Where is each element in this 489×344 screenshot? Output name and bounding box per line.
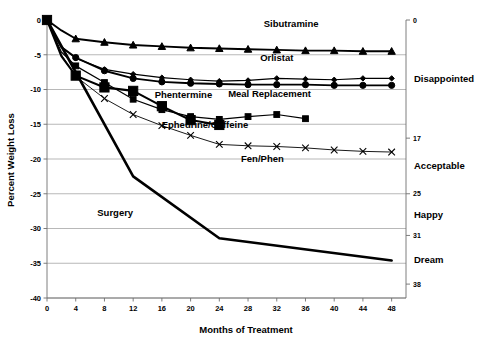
- y-tick-label: -25: [30, 190, 41, 199]
- series-label-orlistat: Orlistat: [260, 52, 294, 63]
- x-tick-label: 16: [158, 304, 166, 313]
- data-point-marker: [360, 76, 365, 81]
- series-label-phentermine: Phentermine: [155, 89, 213, 100]
- series-line: [47, 20, 392, 85]
- right-category-label: Acceptable: [414, 160, 465, 171]
- data-point-marker: [389, 76, 394, 81]
- right-tick-label: 17: [413, 135, 421, 142]
- x-tick-label: 12: [129, 304, 137, 313]
- data-point-marker: [73, 54, 79, 60]
- right-tick-label: 25: [413, 190, 421, 197]
- data-point-marker: [130, 96, 136, 102]
- y-tick-label: -5: [34, 51, 41, 60]
- data-point-marker: [302, 82, 308, 88]
- y-axis-title: Percent Weight Loss: [5, 113, 16, 207]
- series-label-sibutramine: Sibutramine: [264, 18, 319, 29]
- series-label-ephedrine-caffeine: Ephedrine/Caffeine: [162, 119, 249, 130]
- weight-loss-line-chart: 0-5-10-15-20-25-30-35-40 048121620242832…: [0, 0, 489, 344]
- series-surgery: [47, 20, 392, 260]
- data-series: [42, 15, 395, 260]
- y-tick-label: 0: [37, 16, 41, 25]
- data-point-marker: [303, 76, 308, 81]
- right-category-label: Happy: [414, 209, 444, 220]
- x-tick-label: 48: [387, 304, 395, 313]
- y-tick-label: -10: [30, 85, 41, 94]
- right-tick-label: 38: [413, 281, 421, 288]
- x-tick-label: 24: [215, 304, 224, 313]
- data-point-marker: [274, 76, 279, 81]
- x-tick-label: 4: [74, 304, 79, 313]
- x-tick-label: 40: [330, 304, 338, 313]
- data-point-marker: [331, 82, 337, 88]
- y-tick-label: -20: [30, 155, 41, 164]
- right-category-label: Disappointed: [414, 73, 474, 84]
- data-point-marker: [274, 82, 280, 88]
- y-tick-label: -15: [30, 120, 41, 129]
- data-point-marker: [100, 83, 109, 92]
- data-point-marker: [389, 82, 395, 88]
- x-axis-title: Months of Treatment: [199, 324, 293, 335]
- series-line: [47, 20, 392, 260]
- series-sibutramine: [43, 16, 395, 54]
- data-point-marker: [159, 79, 165, 85]
- data-point-marker: [303, 116, 309, 122]
- x-tick-label: 0: [45, 304, 49, 313]
- x-tick-label: 36: [301, 304, 309, 313]
- right-tick-label: 0: [413, 17, 417, 24]
- series-phentermine: [44, 17, 308, 122]
- series-label-fen-phen: Fen/Phen: [241, 153, 284, 164]
- secondary-axis: 017253138DisappointedAcceptableHappyDrea…: [406, 17, 474, 288]
- data-point-marker: [245, 82, 251, 88]
- y-tick-label: -35: [30, 259, 41, 268]
- data-point-marker: [157, 102, 166, 111]
- x-tick-label: 20: [186, 304, 194, 313]
- data-point-marker: [101, 68, 107, 74]
- data-point-marker: [360, 82, 366, 88]
- x-tick-label: 28: [244, 304, 252, 313]
- y-tick-label: -40: [30, 294, 41, 303]
- x-axis-ticks: 04812162024283236404448: [45, 298, 396, 313]
- data-point-marker: [216, 81, 222, 87]
- x-tick-label: 44: [359, 304, 368, 313]
- series-label-meal-replacement: Meal Replacement: [228, 88, 312, 99]
- data-point-marker: [332, 77, 337, 82]
- chart-canvas: 0-5-10-15-20-25-30-35-40 048121620242832…: [0, 0, 489, 344]
- data-point-marker: [130, 75, 136, 81]
- right-tick-label: 31: [413, 232, 421, 239]
- x-tick-label: 8: [102, 304, 106, 313]
- x-tick-label: 32: [273, 304, 281, 313]
- series-line: [47, 20, 305, 119]
- data-point-marker: [188, 80, 194, 86]
- right-category-label: Dream: [414, 254, 444, 265]
- y-tick-label: -30: [30, 224, 41, 233]
- data-point-marker: [274, 112, 280, 118]
- data-point-marker: [129, 86, 138, 95]
- y-axis-ticks: 0-5-10-15-20-25-30-35-40: [30, 16, 47, 303]
- series-label-surgery: Surgery: [97, 207, 134, 218]
